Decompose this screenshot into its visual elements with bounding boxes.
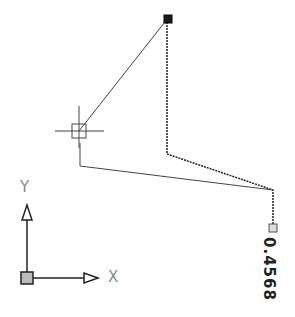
drawing-canvas[interactable]: Y X 0.4568 <box>0 0 295 317</box>
ucs-icon <box>21 205 98 284</box>
ucs-x-label: X <box>108 268 118 286</box>
dimension-value-text[interactable]: 0.4568 <box>260 237 278 301</box>
grip-selected[interactable] <box>164 15 172 23</box>
crosshair-cursor <box>55 106 104 148</box>
drawing-geometry <box>0 0 295 317</box>
leader-line <box>80 166 273 190</box>
grip-unselected[interactable] <box>269 224 277 232</box>
ucs-y-label: Y <box>20 178 29 196</box>
dashed-preview-line <box>167 22 273 225</box>
line-to-cursor[interactable] <box>79 18 168 131</box>
